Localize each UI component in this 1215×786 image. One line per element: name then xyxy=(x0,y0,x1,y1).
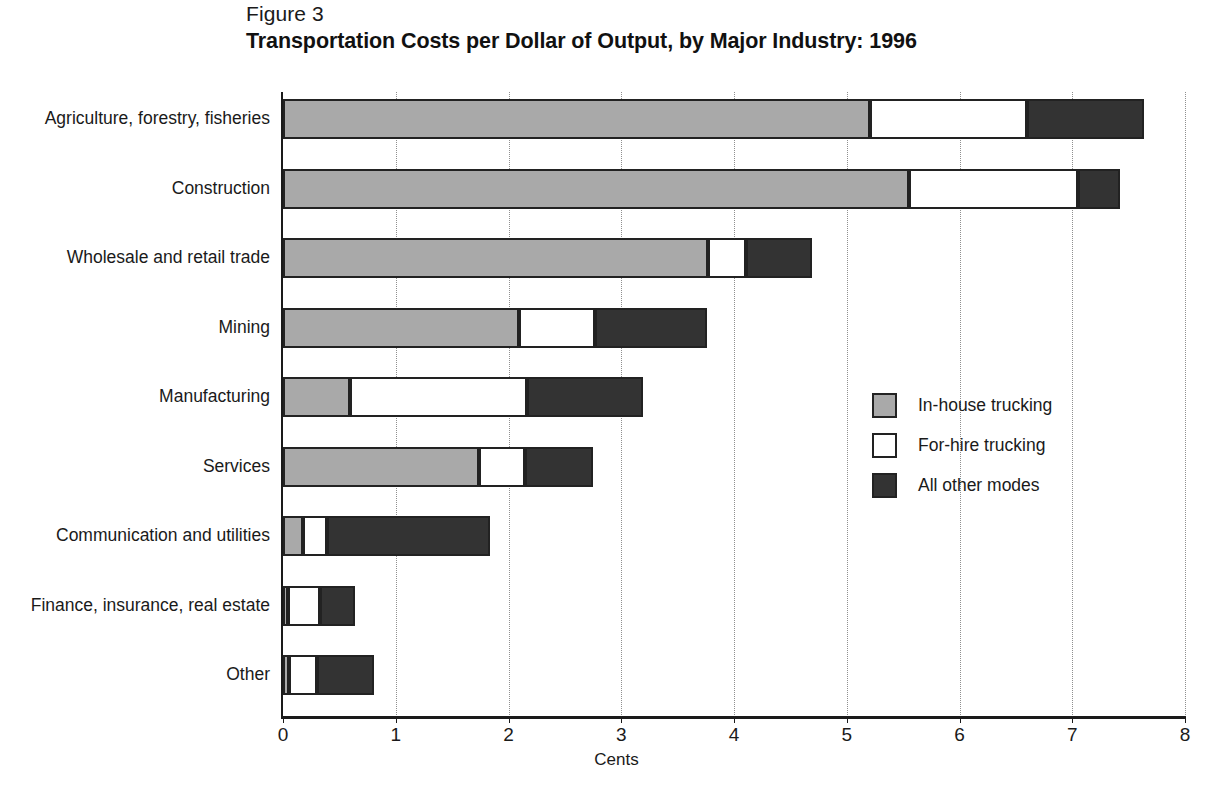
bar-segment[interactable] xyxy=(283,308,519,348)
x-tick-mark-2 xyxy=(509,717,510,723)
bar-row[interactable] xyxy=(283,586,1185,626)
bar-row[interactable] xyxy=(283,516,1185,556)
x-tick-label-7: 7 xyxy=(1052,724,1092,746)
bar-segment[interactable] xyxy=(909,169,1078,209)
y-axis-label: Mining xyxy=(10,317,270,338)
x-tick-mark-1 xyxy=(396,717,397,723)
figure-label: Figure 3 xyxy=(246,2,324,26)
bar-segment[interactable] xyxy=(327,516,490,556)
legend-swatch-icon xyxy=(872,433,897,458)
bar-segment[interactable] xyxy=(527,377,643,417)
legend-swatch-icon xyxy=(872,393,897,418)
legend-label: For-hire trucking xyxy=(918,435,1045,456)
legend-item[interactable]: In-house trucking xyxy=(872,385,1122,425)
bar-segment[interactable] xyxy=(283,447,479,487)
bar-segment[interactable] xyxy=(283,238,708,278)
legend-swatch-icon xyxy=(872,473,897,498)
y-axis-label: Finance, insurance, real estate xyxy=(10,595,270,616)
x-tick-mark-5 xyxy=(847,717,848,723)
y-axis-label: Manufacturing xyxy=(10,386,270,407)
x-tick-label-0: 0 xyxy=(263,724,303,746)
bar-segment[interactable] xyxy=(1027,99,1144,139)
bar-segment[interactable] xyxy=(283,377,350,417)
bar-segment[interactable] xyxy=(525,447,593,487)
legend-label: In-house trucking xyxy=(918,395,1052,416)
x-tick-mark-7 xyxy=(1072,717,1073,723)
x-axis-title: Cents xyxy=(0,750,1215,770)
bar-segment[interactable] xyxy=(289,655,317,695)
bar-segment[interactable] xyxy=(283,516,303,556)
chart-legend: In-house truckingFor-hire truckingAll ot… xyxy=(872,385,1122,505)
bar-segment[interactable] xyxy=(283,169,909,209)
chart-title: Transportation Costs per Dollar of Outpu… xyxy=(246,29,917,54)
y-axis-label: Agriculture, forestry, fisheries xyxy=(10,108,270,129)
gridline-8 xyxy=(1185,92,1187,717)
y-axis-label: Services xyxy=(10,456,270,477)
x-tick-label-5: 5 xyxy=(827,724,867,746)
bar-row[interactable] xyxy=(283,99,1185,139)
y-axis-label: Construction xyxy=(10,178,270,199)
bar-segment[interactable] xyxy=(1078,169,1120,209)
bar-row[interactable] xyxy=(283,655,1185,695)
x-axis-title-text: Cents xyxy=(594,750,638,769)
bar-segment[interactable] xyxy=(317,655,375,695)
bar-row[interactable] xyxy=(283,169,1185,209)
y-axis-label: Wholesale and retail trade xyxy=(10,247,270,268)
bar-segment[interactable] xyxy=(303,516,327,556)
bar-segment[interactable] xyxy=(288,586,321,626)
page-edge xyxy=(0,778,1215,786)
x-tick-mark-0 xyxy=(283,717,284,723)
x-tick-label-1: 1 xyxy=(376,724,416,746)
y-axis-label: Communication and utilities xyxy=(10,525,270,546)
bar-segment[interactable] xyxy=(283,586,288,626)
bar-segment[interactable] xyxy=(870,99,1027,139)
bar-segment[interactable] xyxy=(595,308,707,348)
legend-item[interactable]: For-hire trucking xyxy=(872,425,1122,465)
bar-segment[interactable] xyxy=(746,238,811,278)
x-tick-mark-3 xyxy=(621,717,622,723)
x-tick-label-8: 8 xyxy=(1165,724,1205,746)
x-tick-label-4: 4 xyxy=(714,724,754,746)
bar-segment[interactable] xyxy=(283,99,870,139)
x-tick-mark-4 xyxy=(734,717,735,723)
legend-label: All other modes xyxy=(918,475,1040,496)
bar-segment[interactable] xyxy=(519,308,596,348)
legend-item[interactable]: All other modes xyxy=(872,465,1122,505)
bar-segment[interactable] xyxy=(479,447,525,487)
x-tick-label-3: 3 xyxy=(601,724,641,746)
x-tick-mark-8 xyxy=(1185,717,1186,723)
bar-row[interactable] xyxy=(283,238,1185,278)
y-axis-label: Other xyxy=(10,664,270,685)
bar-segment[interactable] xyxy=(320,586,355,626)
x-tick-label-2: 2 xyxy=(489,724,529,746)
x-tick-mark-6 xyxy=(960,717,961,723)
x-tick-label-6: 6 xyxy=(940,724,980,746)
bar-row[interactable] xyxy=(283,308,1185,348)
bar-segment[interactable] xyxy=(350,377,527,417)
bar-segment[interactable] xyxy=(283,655,289,695)
bar-segment[interactable] xyxy=(708,238,746,278)
